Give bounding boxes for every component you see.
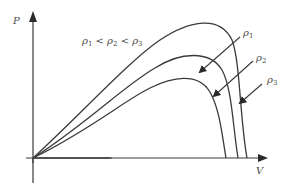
curve-rho3 [33,78,226,158]
pointer-rho3 [240,84,262,103]
ordering-condition: ρ1 < ρ2 < ρ3 [82,36,143,48]
label-rho2: ρ2 [256,53,266,65]
label-rho1: ρ1 [243,28,253,40]
label-rho3: ρ3 [267,75,277,87]
x-axis-label: V [256,166,263,176]
curve-rho2 [33,56,238,159]
x-axis [26,154,268,163]
x-axis-arrow-icon [258,154,268,162]
y-axis-arrow-icon [29,11,37,22]
y-axis-label: P [13,16,20,26]
